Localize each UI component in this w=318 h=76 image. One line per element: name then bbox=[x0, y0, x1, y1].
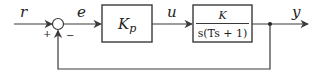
error-label: e bbox=[77, 3, 86, 21]
reference-label: r bbox=[20, 3, 28, 21]
minus-sign: − bbox=[66, 30, 74, 41]
plus-sign: + bbox=[43, 28, 51, 39]
output-label: y bbox=[291, 3, 301, 21]
plant-denominator: s(Ts + 1) bbox=[198, 27, 248, 40]
plant-numerator: K bbox=[217, 9, 227, 22]
control-label: u bbox=[167, 3, 177, 21]
summing-junction bbox=[53, 19, 64, 30]
block-diagram: r + − e Kp u K s(Ts + 1) y bbox=[0, 0, 318, 76]
